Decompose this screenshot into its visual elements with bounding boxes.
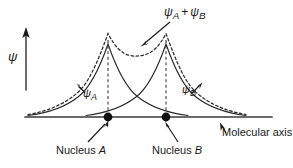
psi-a-glyph: ψ <box>83 87 91 99</box>
leader-line-sum <box>145 22 170 43</box>
molecular-axis-label: Molecular axis <box>222 127 292 138</box>
leader-line-nucleus-b <box>167 125 178 142</box>
nucleus-b-dot <box>162 113 171 122</box>
psi-sum-label: ψA+ψB <box>164 6 206 21</box>
psi-b-subscript: B <box>190 88 196 98</box>
psi-sum-plus-sign: + <box>179 5 190 19</box>
nucleus-a-text: Nucleus <box>56 144 96 156</box>
leader-arrowhead-nucleus-b-icon <box>165 121 169 130</box>
diagram-canvas <box>0 0 293 168</box>
nucleus-a-identifier: A <box>99 144 106 156</box>
nucleus-b-identifier: B <box>195 144 202 156</box>
leader-arrowhead-sum-icon <box>141 41 150 47</box>
leader-arrowhead-psi-a-icon <box>77 85 83 89</box>
molecular-orbital-diagram: ψ ψA+ψB ψA ψB Nucleus A Nucleus B Molecu… <box>0 0 293 168</box>
psi-a-subscript: A <box>91 92 97 102</box>
nucleus-b-text: Nucleus <box>152 144 192 156</box>
psi-sum-glyph-b: ψ <box>190 5 199 19</box>
psi-sum-subscript-b: B <box>199 10 206 21</box>
psi-b-label: ψB <box>182 84 196 98</box>
psi-a-label: ψA <box>83 88 97 102</box>
psi-sum-glyph-a: ψ <box>164 5 173 19</box>
psi-axis-glyph: ψ <box>8 49 17 64</box>
nucleus-a-dot <box>104 113 113 122</box>
psi-axis-label: ψ <box>8 50 17 63</box>
nucleus-a-label: Nucleus A <box>56 145 106 156</box>
leader-line-nucleus-a <box>88 124 105 142</box>
curve-psi-sum <box>28 34 246 115</box>
psi-b-glyph: ψ <box>182 83 190 95</box>
leader-arrowhead-nucleus-a-icon <box>103 121 109 129</box>
nucleus-b-label: Nucleus B <box>152 145 202 156</box>
